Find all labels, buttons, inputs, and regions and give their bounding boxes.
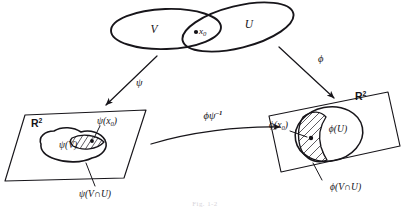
psi-arrow [106,56,157,105]
left-plane-space-label: R2 [31,117,43,129]
right-point-label: ϕ(x0) [269,119,288,131]
left-image-label: ψ(V) [59,139,77,151]
phi-label: ϕ [318,53,324,64]
diagram-canvas: V U x0 ψ ϕ R2 ψ(V) [0,0,410,208]
point-x0-label: x0 [198,26,207,37]
right-point-dot [309,136,313,140]
right-plane-group: R2 ϕ(U) ϕ(x0) ϕ(V∩ [269,90,400,193]
phi-arrow [279,47,334,98]
psi-arrow-group: ψ [106,56,157,105]
transition-arrow [151,127,280,144]
right-image-ellipse [290,101,367,167]
region-v-label: V [150,23,159,35]
transition-label: ϕψ–1 [204,109,223,121]
left-point-dot [90,139,94,143]
region-u-label: U [245,18,254,30]
left-plane-group: R2 ψ(V) ψ(x0) ψ(V∩U) [5,110,146,200]
figure-root: V U x0 ψ ϕ R2 ψ(V) [0,0,410,208]
right-plane-space-label: R2 [355,90,367,102]
region-v-outline [110,7,221,51]
left-intersection-label: ψ(V∩U) [79,188,111,200]
transition-arrow-group: ϕψ–1 [151,109,280,144]
left-intersection-leader [86,163,95,186]
phi-arrow-group: ϕ [279,47,334,98]
psi-label: ψ [136,77,143,88]
right-intersection-leader [313,163,322,180]
manifold-group: V U x0 [110,0,298,61]
figure-caption: Fig. 1-2 [192,200,217,208]
right-image-label: ϕ(U) [329,123,347,135]
point-x0-dot [194,30,198,34]
right-intersection-label: ϕ(V∩U) [330,181,361,193]
